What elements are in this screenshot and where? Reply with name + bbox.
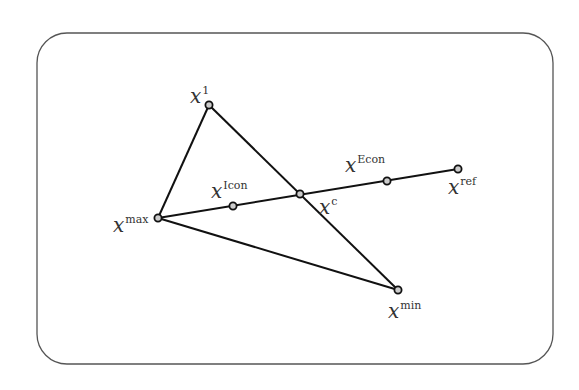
label-xmin: xmin: [388, 299, 421, 323]
point-xref: [454, 165, 461, 172]
point-xc: [296, 190, 303, 197]
diagram-canvas: x1xmaxxminxcxIconxEconxref: [0, 0, 579, 390]
point-xmax: [154, 214, 161, 221]
label-xIcon: xIcon: [211, 179, 248, 203]
label-xc: xc: [319, 195, 337, 219]
label-xref: xref: [448, 175, 477, 199]
point-x1: [205, 101, 212, 108]
segment-xmax-xref: [158, 169, 458, 218]
label-xmax: xmax: [113, 213, 149, 237]
point-xEcon: [383, 177, 390, 184]
point-xmin: [394, 286, 401, 293]
segment-xmax-x1: [158, 105, 209, 218]
frame-border: [37, 33, 553, 364]
label-xEcon: xEcon: [345, 153, 385, 177]
point-xIcon: [229, 202, 236, 209]
segments-group: [158, 105, 458, 290]
points-group: [154, 101, 461, 293]
labels-group: x1xmaxxminxcxIconxEconxref: [113, 84, 477, 323]
